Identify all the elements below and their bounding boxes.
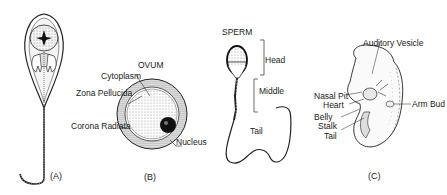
- label-nucleus: Nucleus: [176, 137, 207, 147]
- embryo-sac-illustration: [20, 14, 63, 184]
- caption-c: (C): [368, 171, 381, 181]
- embryo-illustration: [341, 42, 411, 147]
- label-head: Head: [265, 55, 285, 65]
- ovum-title: OVUM: [138, 60, 164, 70]
- label-heart: Heart: [323, 100, 344, 110]
- caption-b: (B): [144, 172, 156, 182]
- label-arm-bud: Arm Bud: [412, 99, 445, 109]
- label-zona-pellucida: Zona Pellucida: [76, 88, 132, 98]
- label-embryo-tail: Tail: [324, 131, 337, 141]
- label-stalk: Stalk: [318, 121, 337, 131]
- label-sperm-tail: Tail: [250, 126, 263, 136]
- label-auditory-vesicle: Auditory Vesicle: [363, 38, 423, 48]
- sperm-title: SPERM: [222, 27, 252, 37]
- label-cytoplasm: Cytoplasm: [101, 71, 141, 81]
- caption-a: (A): [50, 171, 62, 181]
- label-corona-radiata: Corona Radiata: [71, 121, 131, 131]
- label-middle: Middle: [259, 86, 284, 96]
